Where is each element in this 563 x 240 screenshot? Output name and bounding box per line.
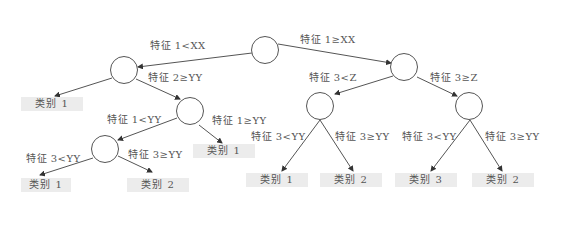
edge-label: 特征 2≥YY bbox=[148, 69, 203, 84]
edge-label: 特征 1≥XX bbox=[300, 31, 356, 46]
edge-label: 特征 3<Z bbox=[309, 69, 357, 84]
edge-label: 特征 3≥YY bbox=[485, 128, 540, 143]
leaf-class: 类别 2 bbox=[320, 173, 382, 187]
leaf-class: 类别 1 bbox=[21, 178, 71, 192]
edge-label: 特征 3≥YY bbox=[128, 146, 183, 161]
node-right-1 bbox=[390, 53, 418, 81]
root-node bbox=[251, 36, 279, 64]
leaf-class: 类别 3 bbox=[395, 173, 457, 187]
edge-label: 特征 1<YY bbox=[107, 111, 162, 126]
leaf-class: 类别 2 bbox=[472, 173, 534, 187]
node-right-3 bbox=[455, 92, 483, 120]
edge-label: 特征 3<YY bbox=[251, 128, 306, 143]
edge-label: 特征 1≥YY bbox=[212, 112, 267, 127]
leaf-class: 类别 1 bbox=[193, 144, 255, 158]
leaf-class: 类别 1 bbox=[246, 173, 308, 187]
edge-label: 特征 1<XX bbox=[150, 37, 206, 52]
edge-label: 特征 3≥YY bbox=[335, 128, 390, 143]
leaf-class: 类别 2 bbox=[127, 178, 189, 192]
node-left-3 bbox=[91, 135, 119, 163]
node-left-1 bbox=[110, 56, 138, 84]
node-right-2 bbox=[306, 92, 334, 120]
edge-label: 特征 3≥Z bbox=[430, 69, 478, 84]
node-left-2 bbox=[176, 97, 204, 125]
edge-label: 特征 3<YY bbox=[26, 150, 81, 165]
edge-label: 特征 3<YY bbox=[402, 128, 457, 143]
leaf-class: 类别 1 bbox=[21, 97, 83, 111]
